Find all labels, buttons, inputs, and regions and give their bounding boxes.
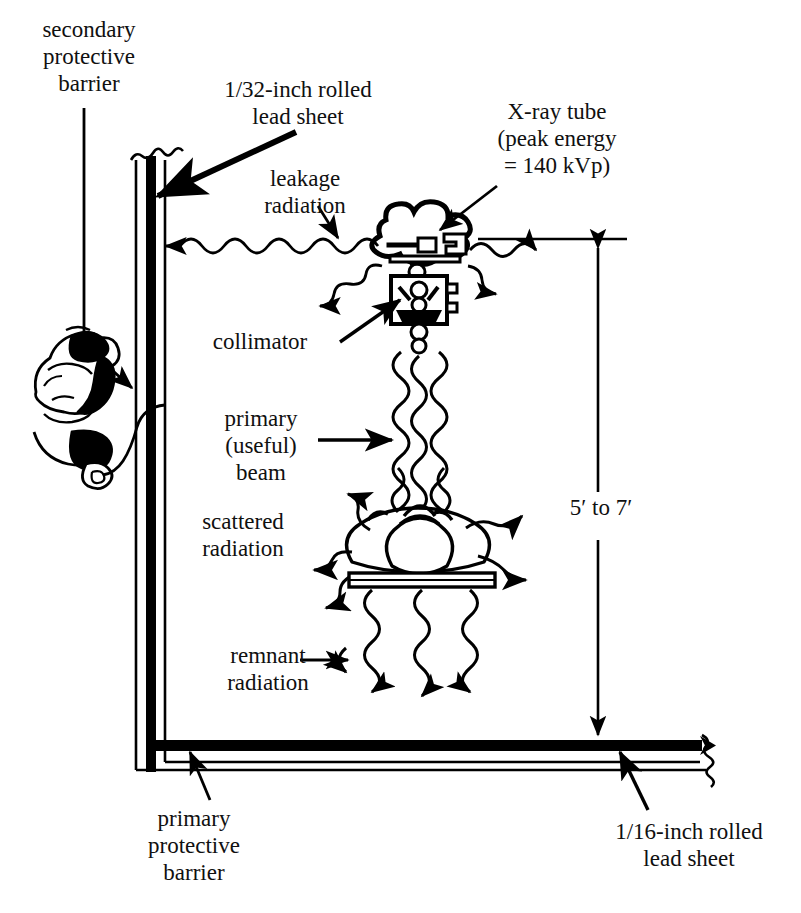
source-to-floor-dimension — [478, 239, 627, 735]
x-ray-tube-housing — [372, 202, 470, 280]
diagram-canvas: secondary protective barrier 1/32-inch r… — [0, 0, 801, 913]
label-remnant-radiation: remnant radiation — [193, 642, 343, 696]
label-collimator: collimator — [185, 328, 335, 355]
label-height-dimension: 5′ to 7′ — [536, 494, 666, 521]
radiographic-table — [349, 573, 495, 587]
collimator-assembly — [391, 276, 457, 353]
radiographer-behind-barrier — [34, 327, 119, 489]
secondary-protective-barrier-wall — [131, 148, 183, 772]
remnant-radiation-rays — [339, 590, 478, 696]
label-xray-tube: X-ray tube (peak energy = 140 kVp) — [452, 98, 662, 179]
label-scattered-radiation: scattered radiation — [168, 508, 318, 562]
label-leakage-radiation: leakage radiation — [230, 165, 380, 219]
label-lead-sheet-1-16: 1/16-inch rolled lead sheet — [580, 818, 798, 872]
primary-protective-barrier-floor — [136, 735, 716, 787]
leakage-radiation-rays — [166, 239, 536, 306]
label-secondary-protective-barrier: secondary protective barrier — [14, 16, 164, 97]
patient-cross-section — [347, 506, 490, 574]
label-primary-useful-beam: primary (useful) beam — [186, 405, 336, 486]
label-primary-protective-barrier: primary protective barrier — [104, 805, 284, 886]
label-lead-sheet-1-32: 1/32-inch rolled lead sheet — [178, 76, 418, 130]
xray-room-illustration — [0, 0, 801, 913]
